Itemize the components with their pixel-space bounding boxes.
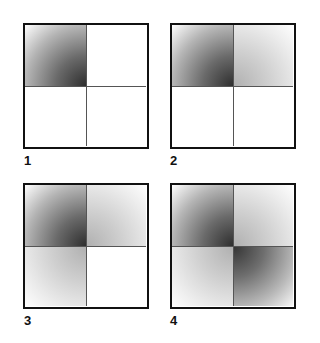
quadrant-top-left xyxy=(172,185,233,246)
panel-label-1: 1 xyxy=(24,153,31,168)
horizontal-divider xyxy=(25,86,146,87)
quadrant-top-right xyxy=(87,25,146,86)
quadrant-bottom-right xyxy=(87,247,146,306)
quadrant-top-right xyxy=(234,185,293,246)
panel-1 xyxy=(23,23,149,149)
quadrant-bottom-left xyxy=(172,87,233,146)
quadrant-bottom-right xyxy=(234,247,293,306)
quadrant-top-left xyxy=(25,185,86,246)
quadrant-bottom-left xyxy=(25,87,86,146)
panel-frame xyxy=(23,183,149,309)
panel-label-3: 3 xyxy=(24,313,31,328)
quadrant-bottom-left xyxy=(172,247,233,306)
panel-frame xyxy=(170,183,296,309)
quadrant-bottom-right xyxy=(234,87,293,146)
panel-label-4: 4 xyxy=(170,313,177,328)
horizontal-divider xyxy=(25,246,146,247)
quadrant-top-left xyxy=(172,25,233,86)
quadrant-top-right xyxy=(87,185,146,246)
quadrant-top-right xyxy=(234,25,293,86)
quadrant-bottom-right xyxy=(87,87,146,146)
quadrant-top-left xyxy=(25,25,86,86)
panel-4 xyxy=(170,183,296,309)
panel-label-2: 2 xyxy=(170,153,177,168)
panel-frame xyxy=(170,23,296,149)
panel-frame xyxy=(23,23,149,149)
quadrant-bottom-left xyxy=(25,247,86,306)
panel-3 xyxy=(23,183,149,309)
horizontal-divider xyxy=(172,246,293,247)
horizontal-divider xyxy=(172,86,293,87)
panel-2 xyxy=(170,23,296,149)
